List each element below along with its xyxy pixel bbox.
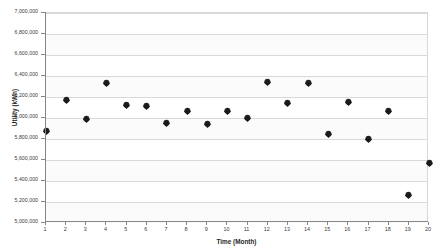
x-tick-label: 13	[277, 227, 297, 232]
data-point	[63, 97, 70, 104]
x-tick-label: 16	[337, 227, 357, 232]
x-tick-label: 5	[116, 227, 136, 232]
x-tick-mark	[408, 222, 409, 225]
gridline-horizontal	[46, 34, 427, 35]
x-tick-mark	[388, 222, 389, 225]
data-point	[224, 108, 231, 115]
x-tick-mark	[428, 222, 429, 225]
x-tick-label: 10	[216, 227, 236, 232]
x-tick-label: 17	[358, 227, 378, 232]
x-tick-label: 7	[156, 227, 176, 232]
gridline-horizontal	[46, 13, 427, 14]
x-tick-mark	[85, 222, 86, 225]
plot-area	[45, 12, 428, 222]
y-tick-label: 6,400,000	[0, 72, 38, 77]
plot-band	[46, 160, 427, 181]
data-point	[345, 99, 352, 106]
x-tick-label: 20	[418, 227, 437, 232]
x-tick-label: 1	[35, 227, 55, 232]
x-tick-mark	[226, 222, 227, 225]
gridline-horizontal	[46, 202, 427, 203]
x-tick-label: 8	[176, 227, 196, 232]
x-tick-mark	[247, 222, 248, 225]
scatter-chart: 5,000,0005,200,0005,400,0005,600,0005,80…	[0, 0, 437, 252]
x-tick-mark	[45, 222, 46, 225]
data-point	[143, 103, 150, 110]
y-tick-label: 5,200,000	[0, 198, 38, 203]
gridline-horizontal	[46, 76, 427, 77]
y-tick-label: 5,800,000	[0, 135, 38, 140]
x-axis-line	[45, 221, 428, 222]
y-tick-mark	[41, 75, 45, 76]
gridline-horizontal	[46, 160, 427, 161]
y-tick-label: 5,400,000	[0, 177, 38, 182]
x-tick-label: 3	[75, 227, 95, 232]
y-tick-label: 6,000,000	[0, 114, 38, 119]
x-tick-mark	[166, 222, 167, 225]
x-tick-mark	[307, 222, 308, 225]
y-tick-label: 6,600,000	[0, 51, 38, 56]
x-tick-mark	[267, 222, 268, 225]
x-tick-mark	[146, 222, 147, 225]
y-tick-label: 5,600,000	[0, 156, 38, 161]
x-tick-mark	[105, 222, 106, 225]
y-tick-mark	[41, 33, 45, 34]
x-tick-label: 6	[136, 227, 156, 232]
x-tick-label: 18	[378, 227, 398, 232]
data-point	[123, 102, 130, 109]
y-tick-mark	[41, 12, 45, 13]
x-tick-label: 11	[237, 227, 257, 232]
x-tick-mark	[206, 222, 207, 225]
gridline-horizontal	[46, 181, 427, 182]
gridline-horizontal	[46, 118, 427, 119]
y-tick-mark	[41, 138, 45, 139]
y-tick-mark	[41, 159, 45, 160]
x-tick-mark	[65, 222, 66, 225]
x-tick-mark	[347, 222, 348, 225]
x-tick-mark	[126, 222, 127, 225]
y-tick-label: 6,800,000	[0, 30, 38, 35]
data-point	[284, 100, 291, 107]
y-tick-mark	[41, 96, 45, 97]
y-tick-mark	[41, 180, 45, 181]
x-tick-mark	[368, 222, 369, 225]
x-tick-mark	[327, 222, 328, 225]
gridline-horizontal	[46, 97, 427, 98]
data-point	[365, 135, 372, 142]
y-tick-label: 5,000,000	[0, 219, 38, 224]
data-point	[405, 192, 412, 199]
y-axis-line	[45, 12, 46, 222]
x-tick-label: 19	[398, 227, 418, 232]
gridline-horizontal	[46, 55, 427, 56]
x-tick-mark	[186, 222, 187, 225]
x-tick-label: 9	[196, 227, 216, 232]
y-tick-mark	[41, 201, 45, 202]
x-tick-label: 2	[55, 227, 75, 232]
x-tick-label: 4	[95, 227, 115, 232]
x-tick-label: 12	[257, 227, 277, 232]
plot-band	[46, 202, 427, 223]
y-tick-mark	[41, 117, 45, 118]
x-tick-mark	[287, 222, 288, 225]
x-tick-label: 15	[317, 227, 337, 232]
x-axis-title: Time (Month)	[45, 238, 428, 245]
plot-band	[46, 34, 427, 55]
plot-band	[46, 76, 427, 97]
data-point	[385, 108, 392, 115]
y-axis-title: Utility (kWh)	[11, 68, 18, 148]
x-tick-label: 14	[297, 227, 317, 232]
y-tick-label: 7,000,000	[0, 9, 38, 14]
y-tick-label: 6,200,000	[0, 93, 38, 98]
y-tick-mark	[41, 54, 45, 55]
data-point	[184, 108, 191, 115]
